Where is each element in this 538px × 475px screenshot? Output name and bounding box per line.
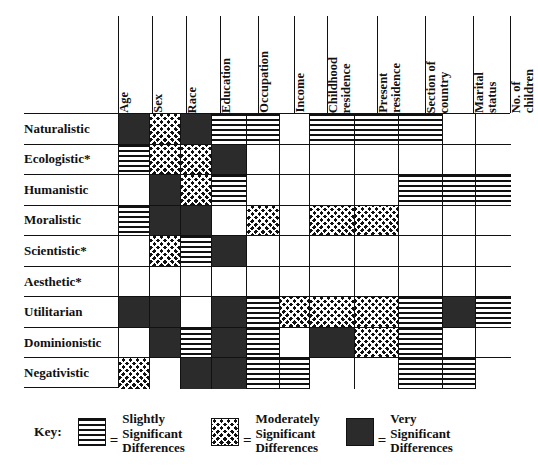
matrix-cell-dominionistic-sex — [150, 328, 181, 359]
matrix-cell-aesthetic-age — [119, 267, 150, 298]
row-label-negativistic: Negativistic — [24, 357, 118, 388]
column-header-marital_status: Marital status — [473, 16, 510, 113]
matrix-cell-negativistic-no_of_children — [476, 358, 511, 389]
legend-equals-sign: = — [243, 432, 252, 449]
matrix-cell-naturalistic-income — [280, 114, 310, 145]
matrix-cell-negativistic-section_of_country — [399, 358, 443, 389]
matrix-cell-humanistic-education — [212, 175, 247, 206]
matrix-cell-aesthetic-no_of_children — [476, 267, 511, 298]
matrix-cell-utilitarian-childhood_residence — [310, 297, 356, 328]
matrix-cell-aesthetic-childhood_residence — [310, 267, 356, 298]
matrix-cell-ecologistic-occupation — [247, 145, 280, 176]
matrix-row — [119, 175, 511, 206]
matrix-cell-scientistic-childhood_residence — [310, 236, 356, 267]
column-header-label: No. of children — [510, 68, 538, 113]
matrix-cell-moralistic-childhood_residence — [310, 206, 356, 237]
matrix-cell-dominionistic-age — [119, 328, 150, 359]
matrix-cell-humanistic-section_of_country — [399, 175, 443, 206]
matrix-cell-humanistic-no_of_children — [476, 175, 511, 206]
matrix-cell-negativistic-age — [119, 358, 150, 389]
matrix-cell-utilitarian-sex — [150, 297, 181, 328]
matrix-cell-humanistic-age — [119, 175, 150, 206]
matrix-cell-naturalistic-race — [181, 114, 212, 145]
matrix-cell-aesthetic-occupation — [247, 267, 280, 298]
column-header-race: Race — [186, 16, 220, 113]
matrix-cell-moralistic-occupation — [247, 206, 280, 237]
matrix-cell-moralistic-present_residence — [355, 206, 399, 237]
matrix-cell-ecologistic-education — [212, 145, 247, 176]
matrix-cell-moralistic-marital_status — [443, 206, 477, 237]
matrix-cell-naturalistic-childhood_residence — [310, 114, 356, 145]
column-header-label: Section of country — [425, 60, 453, 113]
legend-swatch-very-icon — [346, 418, 374, 446]
row-label-naturalistic: Naturalistic — [24, 113, 118, 144]
row-label-utilitarian: Utilitarian — [24, 296, 118, 327]
matrix-cell-moralistic-section_of_country — [399, 206, 443, 237]
legend-entry-moderate: =Moderately Significant Differences — [211, 412, 320, 456]
matrix-cell-naturalistic-age — [119, 114, 150, 145]
matrix-cell-naturalistic-marital_status — [443, 114, 477, 145]
matrix-cell-humanistic-occupation — [247, 175, 280, 206]
matrix-cell-utilitarian-race — [181, 297, 212, 328]
matrix-cell-dominionistic-no_of_children — [476, 328, 511, 359]
matrix-cell-aesthetic-education — [212, 267, 247, 298]
row-label-dominionistic: Dominionistic — [24, 327, 118, 358]
row-label-moralistic: Moralistic — [24, 205, 118, 236]
matrix-row — [119, 358, 511, 389]
column-header-income: Income — [294, 16, 327, 113]
matrix-cell-negativistic-race — [181, 358, 212, 389]
matrix-cell-negativistic-income — [280, 358, 310, 389]
matrix-cell-ecologistic-marital_status — [443, 145, 477, 176]
matrix-cell-dominionistic-income — [280, 328, 310, 359]
matrix-cell-aesthetic-race — [181, 267, 212, 298]
matrix-cell-moralistic-no_of_children — [476, 206, 511, 237]
matrix-cell-moralistic-sex — [150, 206, 181, 237]
matrix-cell-dominionistic-education — [212, 328, 247, 359]
matrix-cell-moralistic-education — [212, 206, 247, 237]
row-label-scientistic: Scientistic* — [24, 235, 118, 266]
matrix-cell-utilitarian-no_of_children — [476, 297, 511, 328]
matrix-cell-humanistic-childhood_residence — [310, 175, 356, 206]
legend-entry-label: Moderately Significant Differences — [255, 412, 319, 456]
matrix-cell-dominionistic-race — [181, 328, 212, 359]
column-header-childhood_residence: Childhood residence — [327, 16, 377, 113]
matrix-cell-naturalistic-education — [212, 114, 247, 145]
row-label-ecologistic: Ecologistic* — [24, 144, 118, 175]
matrix-cell-ecologistic-race — [181, 145, 212, 176]
matrix-cell-utilitarian-present_residence — [355, 297, 399, 328]
column-header-education: Education — [220, 16, 258, 113]
matrix-cell-negativistic-marital_status — [443, 358, 477, 389]
matrix-cell-dominionistic-section_of_country — [399, 328, 443, 359]
legend-entries: =Slightly Significant Differences=Modera… — [78, 412, 479, 456]
legend-title: Key: — [34, 424, 62, 440]
matrix-cell-negativistic-present_residence — [355, 358, 399, 389]
matrix-cell-scientistic-present_residence — [355, 236, 399, 267]
matrix-cell-naturalistic-no_of_children — [476, 114, 511, 145]
matrix-cell-negativistic-sex — [150, 358, 181, 389]
matrix-cell-humanistic-race — [181, 175, 212, 206]
legend-entry-label: Slightly Significant Differences — [122, 412, 185, 456]
column-header-present_residence: Present residence — [377, 16, 425, 113]
matrix-cell-scientistic-income — [280, 236, 310, 267]
matrix-cell-negativistic-childhood_residence — [310, 358, 356, 389]
matrix-cell-utilitarian-education — [212, 297, 247, 328]
matrix-cell-dominionistic-childhood_residence — [310, 328, 356, 359]
matrix-cell-humanistic-present_residence — [355, 175, 399, 206]
matrix-cell-scientistic-race — [181, 236, 212, 267]
matrix-cell-scientistic-education — [212, 236, 247, 267]
matrix-cell-moralistic-age — [119, 206, 150, 237]
matrix-cell-ecologistic-section_of_country — [399, 145, 443, 176]
matrix-cell-scientistic-sex — [150, 236, 181, 267]
legend-swatch-moderate-icon — [211, 418, 239, 446]
legend-entry-very: =Very Significant Differences — [346, 412, 453, 456]
matrix-cell-utilitarian-income — [280, 297, 310, 328]
matrix-row — [119, 114, 511, 145]
matrix-cell-aesthetic-marital_status — [443, 267, 477, 298]
column-header-no_of_children: No. of children — [510, 16, 538, 113]
matrix-grid — [118, 113, 510, 388]
column-header-age: Age — [118, 16, 152, 113]
column-header-label: Childhood residence — [327, 56, 355, 113]
legend-equals-sign: = — [378, 432, 387, 449]
matrix-cell-dominionistic-occupation — [247, 328, 280, 359]
